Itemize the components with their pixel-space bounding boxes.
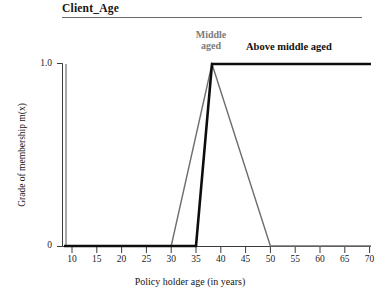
annotation-above-middle-aged: Above middle aged xyxy=(246,41,332,52)
x-tick-label-60: 60 xyxy=(309,254,331,265)
x-tick-label-35: 35 xyxy=(185,254,207,265)
chart-figure: Client_Age xyxy=(0,0,380,297)
y-tick-label-0: 0 xyxy=(26,240,52,251)
x-tick-label-45: 45 xyxy=(235,254,257,265)
x-tick-marks xyxy=(72,247,370,254)
x-tick-label-25: 25 xyxy=(135,254,157,265)
x-tick-label-15: 15 xyxy=(86,254,108,265)
x-tick-label-10: 10 xyxy=(61,254,83,265)
y-tick-marks xyxy=(57,64,63,247)
x-tick-label-30: 30 xyxy=(160,254,182,265)
x-tick-label-50: 50 xyxy=(259,254,281,265)
x-tick-label-70: 70 xyxy=(359,254,380,265)
y-tick-label-1: 1.0 xyxy=(26,58,52,69)
series-middle-aged xyxy=(66,64,371,246)
annotation-middle-aged: Middle aged xyxy=(186,29,236,51)
annotation-middle-aged-line2: aged xyxy=(201,40,221,51)
series-above-middle-aged xyxy=(64,64,371,246)
x-axis-title: Policy holder age (in years) xyxy=(0,276,380,287)
annotation-middle-aged-line1: Middle xyxy=(196,29,227,40)
x-tick-label-40: 40 xyxy=(210,254,232,265)
x-tick-label-55: 55 xyxy=(284,254,306,265)
x-tick-label-20: 20 xyxy=(111,254,133,265)
y-axis-title: Grade of membership m(x) xyxy=(17,60,27,250)
x-tick-label-65: 65 xyxy=(334,254,356,265)
